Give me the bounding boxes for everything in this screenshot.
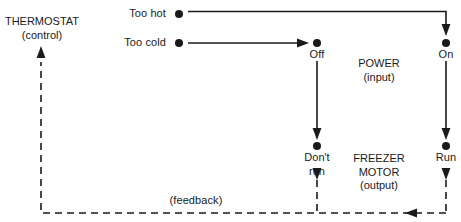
edge-run-feedback	[442, 168, 451, 213]
stage-label-power: POWER (input)	[358, 57, 400, 84]
stage-label-power-name: POWER	[358, 57, 400, 71]
stage-label-thermostat-qualifier: (control)	[5, 29, 79, 43]
node-label-run: Run	[436, 151, 456, 164]
node-label-too-hot: Too hot	[129, 7, 166, 20]
edge-label-feedback: (feedback)	[170, 194, 223, 207]
edge-off-to-dont-run-arrowhead	[313, 128, 322, 140]
node-label-dont-run-line1: Don't	[304, 151, 329, 165]
node-label-dont-run-line2: run	[304, 165, 329, 179]
stage-label-freezer-motor: FREEZER MOTOR (output)	[353, 152, 404, 193]
stage-label-freezer-motor-name-line1: FREEZER	[353, 152, 404, 166]
stage-label-freezer-motor-name-line2: MOTOR	[353, 166, 404, 180]
edge-too-cold-to-off	[188, 39, 309, 48]
node-dot-too-hot[interactable]	[175, 10, 183, 18]
edge-feedback-bus-arrowhead-up	[37, 46, 46, 58]
node-dot-off[interactable]	[313, 39, 321, 47]
node-dot-run[interactable]	[442, 142, 450, 150]
stage-label-power-qualifier: (input)	[358, 71, 400, 85]
node-label-on: On	[439, 48, 454, 61]
stage-label-thermostat: THERMOSTAT (control)	[5, 15, 79, 42]
edge-too-hot-to-on-arrowhead	[442, 24, 451, 36]
feedback-control-diagram: THERMOSTAT (control) POWER (input) FREEZ…	[0, 0, 461, 222]
node-dot-dont-run[interactable]	[313, 142, 321, 150]
edge-run-feedback-arrowhead	[442, 168, 451, 180]
edge-too-hot-to-on-line	[188, 12, 446, 29]
node-label-too-cold: Too cold	[124, 36, 166, 49]
node-dot-on[interactable]	[442, 39, 450, 47]
node-label-dont-run: Don't run	[304, 151, 329, 178]
edge-on-to-run	[442, 61, 451, 140]
node-dot-too-cold[interactable]	[175, 39, 183, 47]
stage-label-thermostat-name: THERMOSTAT	[5, 15, 79, 29]
edge-feedback-bus-arrowhead-left	[405, 209, 417, 218]
edge-off-to-dont-run	[313, 61, 322, 140]
node-label-off: Off	[310, 48, 325, 61]
edge-on-to-run-arrowhead	[442, 128, 451, 140]
stage-label-freezer-motor-qualifier: (output)	[353, 179, 404, 193]
edge-too-hot-to-on	[188, 12, 450, 37]
edge-too-cold-to-off-arrowhead	[297, 39, 309, 48]
